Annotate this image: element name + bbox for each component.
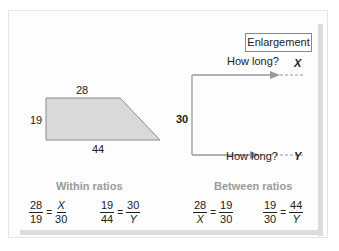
between-ratio-1: 28X = 1930 [193,200,233,225]
trapezium-shape [46,98,160,140]
enlargement-side-label: 30 [176,113,188,125]
within-ratio-1: 2819 = X30 [29,200,67,225]
between-ratio-2: 1930 = 44Y [263,200,303,225]
shape-bottom-label: 44 [92,143,104,155]
shape-top-label: 28 [76,84,88,96]
within-ratios-heading: Within ratios [56,180,123,192]
arrow-head-top [270,71,280,79]
how-long-top: How long? [227,55,279,67]
var-y-label: Y [294,150,301,162]
shape-left-label: 19 [30,114,42,126]
how-long-bottom: How long? [226,150,278,162]
enlargement-box: Enlargement [245,33,312,52]
between-ratios-heading: Between ratios [214,180,292,192]
within-ratio-2: 1944 = 30Y [100,200,140,225]
var-x-label: X [294,57,301,69]
